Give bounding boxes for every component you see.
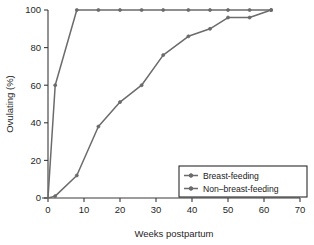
- x-tick-label: 30: [151, 204, 162, 215]
- line-chart: 020406080100010203040506070Weeks postpar…: [0, 0, 314, 245]
- data-point-marker: [75, 9, 78, 12]
- y-tick-label: 40: [30, 117, 41, 128]
- data-point-marker: [75, 174, 78, 177]
- y-axis-title: Ovulating (%): [4, 75, 15, 133]
- data-point-marker: [140, 84, 143, 87]
- y-tick-label: 60: [30, 80, 41, 91]
- y-tick-label: 100: [25, 4, 41, 15]
- y-tick-label: 0: [36, 192, 41, 203]
- data-point-marker: [97, 125, 100, 128]
- x-tick-label: 50: [223, 204, 234, 215]
- x-tick-label: 20: [115, 204, 126, 215]
- data-point-marker: [54, 195, 57, 198]
- data-point-marker: [209, 9, 212, 12]
- data-point-marker: [248, 16, 251, 19]
- y-tick-label: 20: [30, 155, 41, 166]
- figure-container: 020406080100010203040506070Weeks postpar…: [0, 0, 314, 245]
- x-axis-title: Weeks postpartum: [134, 228, 213, 239]
- x-tick-label: 10: [79, 204, 90, 215]
- data-point-marker: [187, 35, 190, 38]
- data-point-marker: [140, 9, 143, 12]
- legend-label-2: Non–breast-feeding: [203, 184, 279, 194]
- data-point-marker: [209, 27, 212, 30]
- y-tick-label: 80: [30, 42, 41, 53]
- data-point-marker: [227, 16, 230, 19]
- legend-label-1: Breast-feeding: [203, 171, 259, 181]
- data-point-marker: [248, 9, 251, 12]
- x-tick-label: 70: [295, 204, 306, 215]
- data-point-marker: [270, 9, 273, 12]
- legend: Breast-feedingNon–breast-feeding: [179, 166, 307, 197]
- x-tick-label: 40: [187, 204, 198, 215]
- x-tick-label: 0: [45, 204, 50, 215]
- legend-sample-marker-2: [189, 187, 193, 191]
- x-tick-label: 60: [259, 204, 270, 215]
- data-point-marker: [119, 101, 122, 104]
- data-point-marker: [187, 9, 190, 12]
- data-point-marker: [227, 9, 230, 12]
- data-point-marker: [119, 9, 122, 12]
- data-point-marker: [162, 9, 165, 12]
- data-point-marker: [97, 9, 100, 12]
- data-point-marker: [162, 54, 165, 57]
- data-point-marker: [54, 84, 57, 87]
- legend-sample-marker-1: [189, 174, 193, 178]
- axes-group: 020406080100010203040506070Weeks postpar…: [4, 4, 305, 239]
